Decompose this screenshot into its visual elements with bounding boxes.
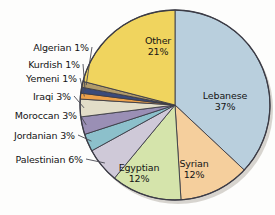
slice-label-egyptian: Egyptian 12%: [110, 163, 168, 185]
callout-algerian: Algerian 1%: [33, 43, 89, 53]
slice-label-other-value: 21%: [126, 47, 190, 58]
slice-label-lebanese-value: 37%: [188, 102, 262, 113]
callout-jordanian: Jordanian 3%: [14, 131, 75, 141]
slice-label-egyptian-value: 12%: [110, 174, 168, 185]
slice-label-egyptian-name: Egyptian: [119, 162, 160, 173]
slice-label-lebanese-name: Lebanese: [203, 90, 247, 101]
slice-label-other-name: Other: [145, 35, 171, 46]
slice-label-syrian-value: 12%: [168, 170, 220, 181]
slice-label-syrian-name: Syrian: [179, 158, 208, 169]
slice-label-other: Other 21%: [126, 36, 190, 58]
callout-iraqi: Iraqi 3%: [33, 92, 71, 102]
slice-label-syrian: Syrian 12%: [168, 159, 220, 181]
callout-kurdish: Kurdish 1%: [28, 60, 80, 70]
callout-palestinian: Palestinian 6%: [16, 155, 83, 165]
slice-label-lebanese: Lebanese 37%: [188, 91, 262, 113]
callout-yemeni: Yemeni 1%: [26, 74, 77, 84]
pie-chart: Algerian 1% Kurdish 1% Yemeni 1% Iraqi 3…: [0, 0, 275, 215]
callout-moroccan: Moroccan 3%: [15, 111, 77, 121]
